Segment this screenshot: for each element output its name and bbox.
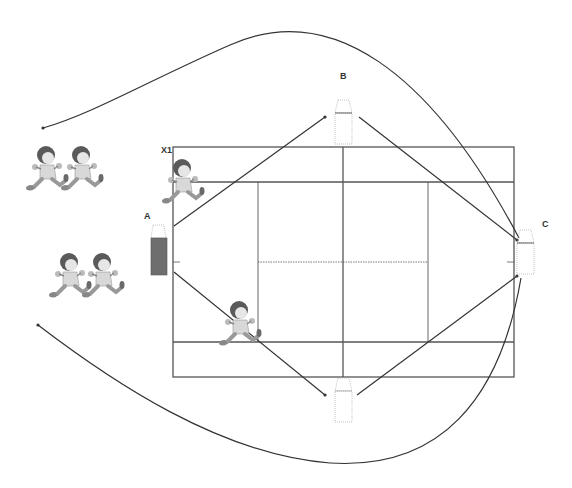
- path-b-to-c: [359, 117, 517, 240]
- cone-a: [151, 225, 167, 275]
- cone-bottom: [335, 378, 352, 422]
- movement-paths: [38, 32, 521, 464]
- drill-diagram: [0, 0, 572, 488]
- label-cone-b: B: [340, 71, 347, 81]
- label-x1: X1: [161, 145, 172, 155]
- path-a-to-b: [174, 117, 325, 226]
- cone-c: [517, 230, 534, 274]
- player-queue-bottom: [49, 253, 125, 298]
- player-x1: [162, 159, 205, 204]
- return-path-bottom: [38, 278, 521, 463]
- cone-b: [335, 100, 352, 144]
- label-cone-c: C: [542, 219, 549, 229]
- return-path-top: [43, 32, 519, 238]
- player-queue-top: [26, 146, 104, 191]
- label-cone-a: A: [144, 211, 151, 221]
- player-runner: [219, 301, 262, 346]
